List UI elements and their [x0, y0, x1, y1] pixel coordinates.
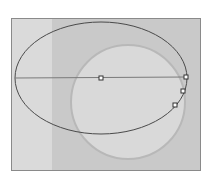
circle-shape[interactable] — [71, 45, 185, 159]
center-handle-icon[interactable] — [99, 76, 103, 80]
shape-layer — [0, 0, 210, 179]
edge-handle-1-icon[interactable] — [184, 75, 188, 79]
edge-handle-3-icon[interactable] — [173, 103, 177, 107]
edge-handle-2-icon[interactable] — [181, 89, 185, 93]
